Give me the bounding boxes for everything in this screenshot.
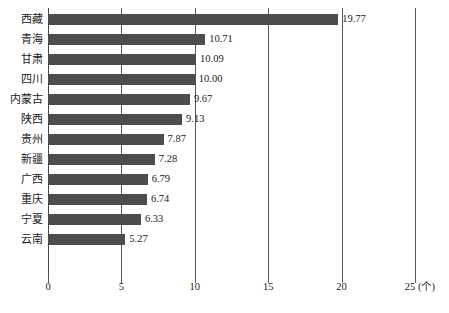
bar-chart: 19.7710.7110.0910.009.679.137.877.286.79… [0, 0, 449, 313]
bar [48, 54, 196, 65]
bar-value-label: 10.71 [209, 31, 233, 47]
gridline-25 [415, 8, 416, 278]
x-tick-label-10: 10 [190, 281, 201, 293]
bar-value-label: 6.79 [152, 171, 170, 187]
bar [48, 134, 164, 145]
category-label-row: 四川 [0, 70, 43, 90]
category-label-row: 贵州 [0, 130, 43, 150]
x-tick-label-15: 15 [263, 281, 274, 293]
category-label: 新疆 [21, 150, 43, 170]
bar-row: 6.79 [48, 170, 415, 190]
category-label: 广西 [21, 170, 43, 190]
bar-value-label: 6.74 [151, 191, 169, 207]
category-label: 重庆 [21, 190, 43, 210]
bar-value-label: 7.87 [168, 131, 186, 147]
category-label-row: 重庆 [0, 190, 43, 210]
category-label: 贵州 [21, 130, 43, 150]
category-label-row: 云南 [0, 230, 43, 250]
category-label: 四川 [21, 70, 43, 90]
category-label-row: 宁夏 [0, 210, 43, 230]
bar-value-label: 19.77 [342, 11, 366, 27]
bar [48, 94, 190, 105]
bar [48, 74, 195, 85]
x-tick-label-5: 5 [119, 281, 124, 293]
bar-row: 9.67 [48, 90, 415, 110]
category-label-row: 西藏 [0, 10, 43, 30]
bar-row: 19.77 [48, 10, 415, 30]
bar [48, 34, 205, 45]
bar [48, 214, 141, 225]
bar-row: 10.71 [48, 30, 415, 50]
bar [48, 154, 155, 165]
category-label: 内蒙古 [10, 90, 43, 110]
bar-value-label: 10.00 [199, 71, 223, 87]
x-tick-label-0: 0 [45, 281, 50, 293]
bar [48, 234, 125, 245]
bar-value-label: 9.13 [186, 111, 204, 127]
bar-value-label: 7.28 [159, 151, 177, 167]
bar-value-label: 10.09 [200, 51, 224, 67]
category-label-row: 陕西 [0, 110, 43, 130]
category-label-row: 新疆 [0, 150, 43, 170]
bar-row: 10.09 [48, 50, 415, 70]
bar-row: 6.33 [48, 210, 415, 230]
bar-row: 7.87 [48, 130, 415, 150]
category-label-row: 青海 [0, 30, 43, 50]
category-label: 青海 [21, 30, 43, 50]
category-label-row: 甘肃 [0, 50, 43, 70]
category-label: 甘肃 [21, 50, 43, 70]
category-label: 宁夏 [21, 210, 43, 230]
bar-value-label: 6.33 [145, 211, 163, 227]
bar-value-label: 9.67 [194, 91, 212, 107]
plot-area: 19.7710.7110.0910.009.679.137.877.286.79… [48, 8, 415, 278]
bar [48, 174, 148, 185]
x-tick-label-20: 20 [336, 281, 347, 293]
bar-row: 7.28 [48, 150, 415, 170]
x-tick-label-25: 25 (个) [405, 281, 435, 293]
bar-value-label: 5.27 [129, 231, 147, 247]
category-label: 陕西 [21, 110, 43, 130]
category-label: 西藏 [21, 10, 43, 30]
category-label: 云南 [21, 230, 43, 250]
bar [48, 114, 182, 125]
bar-row: 5.27 [48, 230, 415, 250]
category-label-row: 广西 [0, 170, 43, 190]
bar [48, 194, 147, 205]
bar-row: 9.13 [48, 110, 415, 130]
bar [48, 14, 338, 25]
category-label-row: 内蒙古 [0, 90, 43, 110]
bar-row: 10.00 [48, 70, 415, 90]
bar-row: 6.74 [48, 190, 415, 210]
